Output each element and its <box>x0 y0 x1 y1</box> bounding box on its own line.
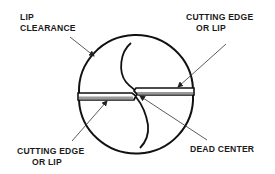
flute-curve-lower <box>136 97 148 148</box>
dead-center-leader <box>140 96 207 140</box>
dead-center-label-line1: DEAD CENTER <box>190 144 254 155</box>
lip-clearance-label: LIP CLEARANCE <box>20 12 76 34</box>
cutting-edge-bottom-label-line2: OR LIP <box>17 157 84 168</box>
lip-clearance-label-line1: LIP <box>20 12 76 23</box>
cutting-edge-top-label-line1: CUTTING EDGE <box>186 12 253 23</box>
flute-curve-upper <box>121 43 136 91</box>
cutting-edge-top-leader <box>178 44 226 87</box>
dead-center-label: DEAD CENTER <box>190 144 254 155</box>
cutting-edge-bottom-label-line1: CUTTING EDGE <box>17 146 84 157</box>
lip-clearance-leader <box>70 37 94 56</box>
cutting-edge-bottom-leader <box>72 101 107 141</box>
left-lip-shading <box>79 97 133 100</box>
right-lip-shading <box>137 92 193 95</box>
drill-point-diagram: LIP CLEARANCE CUTTING EDGE OR LIP CUTTIN… <box>0 0 275 174</box>
drill-body-outline <box>79 35 193 93</box>
cutting-edge-top-label-line2: OR LIP <box>186 23 253 34</box>
lip-clearance-label-line2: CLEARANCE <box>20 23 76 34</box>
cutting-edge-top-label: CUTTING EDGE OR LIP <box>186 12 253 34</box>
drill-body-outline-lower <box>79 95 193 154</box>
cutting-edge-bottom-label: CUTTING EDGE OR LIP <box>17 146 84 168</box>
